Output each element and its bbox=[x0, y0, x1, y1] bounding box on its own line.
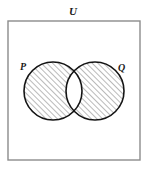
set-label-q: Q bbox=[118, 62, 125, 73]
shaded-region-q-only bbox=[0, 0, 147, 170]
venn-diagram-figure: U P Q bbox=[0, 0, 147, 170]
set-label-p: P bbox=[20, 61, 27, 72]
universal-set-label: U bbox=[69, 5, 78, 17]
venn-diagram-canvas: U P Q bbox=[0, 0, 147, 170]
